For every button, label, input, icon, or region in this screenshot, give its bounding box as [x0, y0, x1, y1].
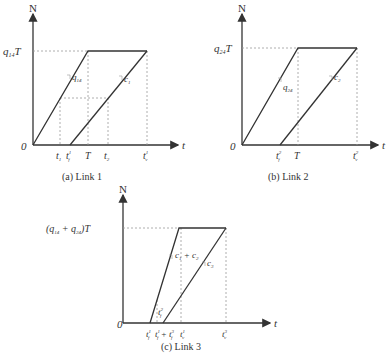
panel-link-1: N t 0 q14T q14 c1 t1 t1f T	[3, 2, 186, 183]
tick-tv1: t1v	[180, 329, 185, 340]
slope-label-q24: q24	[283, 82, 293, 93]
caption: (c) Link 3	[161, 341, 201, 353]
arrival-curve	[242, 48, 357, 145]
slope-label-c2: c2	[334, 72, 341, 83]
origin-label: 0	[117, 318, 123, 330]
slope-label-c3: c3	[207, 258, 214, 269]
level-label: q24T	[214, 42, 233, 55]
x-axis-label: t	[274, 317, 278, 329]
x-axis-label: t	[382, 139, 386, 151]
slope-label-q14: q14	[72, 72, 82, 83]
tick-T: T	[294, 150, 301, 161]
level-label: (q14 + q24)T	[46, 223, 91, 235]
tick-T: T	[85, 150, 92, 161]
tick-tv3: t3v	[222, 329, 228, 340]
slope-label-c1-c2: c1 + c2	[175, 250, 199, 261]
panel-link-3: N t 0 (q14 + q24)T c1 + c2 c3 t2f t1f t1…	[46, 183, 278, 353]
origin-label: 0	[230, 140, 236, 152]
cumulative-count-diagrams: N t 0 q14T q14 c1 t1 t1f T	[0, 0, 388, 355]
slope-label-c1: c1	[124, 74, 131, 85]
tick-tv1: t1v	[143, 150, 148, 162]
panel-link-2: N t 0 q24T q24 c2 t2f T t2v (b) Link 2	[214, 2, 386, 183]
tick-tv2: t2v	[353, 150, 359, 162]
tick-tf2: t2f	[276, 150, 282, 162]
origin-label: 0	[21, 140, 27, 152]
level-label: q14T	[3, 45, 22, 58]
departure-curve	[280, 48, 357, 145]
departure-curve	[163, 228, 226, 323]
caption: (b) Link 2	[268, 171, 309, 183]
tick-t1: t1	[56, 150, 61, 162]
tick-tf1: t1f	[146, 329, 151, 340]
caption: (a) Link 1	[62, 171, 102, 183]
y-axis-label: N	[29, 2, 37, 14]
x-axis-label: t	[182, 139, 186, 151]
tick-tf1: t1f	[66, 150, 71, 162]
inner-label-tf2: t2f	[158, 307, 164, 318]
tick-t2: t2	[104, 150, 110, 162]
y-axis-label: N	[119, 183, 127, 195]
tick-tf1-plus-tf3: t1f + t3f	[155, 329, 175, 340]
y-axis-label: N	[238, 2, 246, 14]
